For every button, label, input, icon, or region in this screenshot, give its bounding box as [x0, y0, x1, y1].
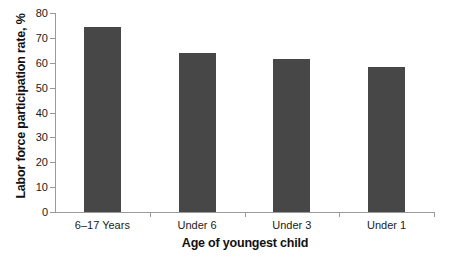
y-axis-tick: [50, 38, 55, 39]
x-axis-tick: [245, 212, 246, 217]
bar: [273, 59, 310, 212]
y-axis-tick: [50, 13, 55, 14]
y-axis-tick-label: 0: [42, 207, 48, 218]
y-axis-tick-label: 20: [36, 157, 48, 168]
y-axis-tick-label: 60: [36, 57, 48, 68]
x-axis-category-label: Under 1: [339, 219, 434, 232]
y-axis-tick: [50, 162, 55, 163]
x-axis-tick: [339, 212, 340, 217]
y-axis-tick-label: 70: [36, 32, 48, 43]
x-axis-category-label: Under 6: [150, 219, 245, 232]
x-axis-tick: [434, 212, 435, 217]
y-axis-tick: [50, 63, 55, 64]
x-axis-tick: [150, 212, 151, 217]
y-axis-tick: [50, 113, 55, 114]
y-axis-tick: [50, 88, 55, 89]
bar: [84, 27, 121, 212]
y-axis-tick-label: 10: [36, 182, 48, 193]
bar-chart-figure: Labor force participation rate, % 010203…: [0, 0, 454, 261]
y-axis-tick: [50, 187, 55, 188]
x-axis-category-label: 6–17 Years: [55, 219, 150, 232]
plot-area: 01020304050607080: [55, 13, 434, 212]
y-axis-tick: [50, 137, 55, 138]
y-axis-title: Labor force participation rate, %: [12, 0, 30, 212]
x-axis-title: Age of youngest child: [55, 236, 435, 250]
y-axis-tick-label: 30: [36, 132, 48, 143]
x-axis-category-label: Under 3: [245, 219, 340, 232]
bar: [179, 53, 216, 212]
y-axis-tick: [50, 212, 55, 213]
bar: [368, 67, 405, 212]
y-axis-tick-label: 40: [36, 107, 48, 118]
y-axis-tick-label: 50: [36, 82, 48, 93]
y-axis-tick-label: 80: [36, 8, 48, 19]
